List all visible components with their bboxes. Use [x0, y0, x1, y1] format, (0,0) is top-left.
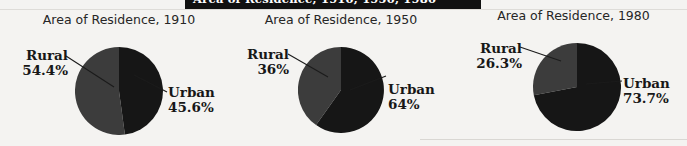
callout-1950-rural-value: 36% — [232, 62, 289, 77]
callout-1910-rural-label: Rural — [26, 47, 68, 63]
callout-1980-urban-label: Urban — [623, 75, 670, 91]
callout-1980-rural: Rural 26.3% — [460, 41, 522, 71]
pie-chart-figure: Area of Residence, 1910, 1950, 1980 Area… — [0, 0, 687, 146]
callout-1950-urban: Urban 64% — [388, 82, 450, 112]
callout-1910-urban-label: Urban — [168, 84, 215, 100]
callout-1980-rural-value: 26.3% — [460, 56, 522, 71]
callout-1980-urban-value: 73.7% — [623, 91, 687, 106]
callout-1910-rural-value: 54.4% — [8, 63, 68, 78]
pie-panel-1910: Area of Residence, 1910 Rural 54.4% Urba… — [8, 12, 230, 146]
callout-1950-urban-label: Urban — [388, 81, 435, 97]
chart-title-1980: Area of Residence, 1980 — [460, 8, 687, 23]
chart-title-1910: Area of Residence, 1910 — [8, 12, 230, 27]
leader-line-1910-urban — [134, 75, 172, 97]
leader-line-1980-urban — [586, 70, 626, 92]
pie-panel-1980: Area of Residence, 1980 Rural 26.3% Urba… — [460, 8, 687, 142]
callout-1910-urban-value: 45.6% — [168, 100, 230, 115]
bottom-divider-rule — [420, 139, 687, 140]
leader-line-1980-rural — [520, 46, 566, 68]
leader-line-1950-urban — [350, 74, 390, 96]
callout-1910-rural: Rural 54.4% — [8, 48, 68, 78]
leader-line-1950-rural — [288, 52, 334, 82]
chart-title-1950: Area of Residence, 1950 — [232, 12, 450, 27]
callout-1980-urban: Urban 73.7% — [623, 76, 687, 106]
callout-1980-rural-label: Rural — [480, 40, 522, 56]
pie-panel-1950: Area of Residence, 1950 Rural 36% Urban … — [232, 12, 450, 146]
figure-banner-title: Area of Residence, 1910, 1950, 1980 — [193, 0, 436, 6]
leader-line-1910-rural — [66, 54, 122, 94]
callout-1950-rural-label: Rural — [247, 46, 289, 62]
callout-1950-rural: Rural 36% — [232, 47, 289, 77]
figure-banner: Area of Residence, 1910, 1950, 1980 — [185, 0, 481, 9]
callout-1910-urban: Urban 45.6% — [168, 85, 230, 115]
callout-1950-urban-value: 64% — [388, 97, 450, 112]
